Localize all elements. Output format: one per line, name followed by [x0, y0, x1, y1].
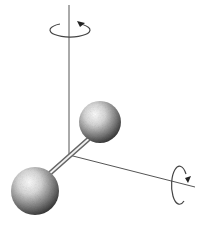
horizontal-axis [69, 155, 195, 187]
rigid-rotor-diagram [0, 0, 204, 226]
upper-atom [79, 101, 121, 143]
lower-atom [11, 167, 59, 215]
vertical-rotation-arrow-icon [50, 21, 90, 37]
diagram-canvas [0, 0, 204, 226]
bond-highlight [48, 136, 92, 175]
